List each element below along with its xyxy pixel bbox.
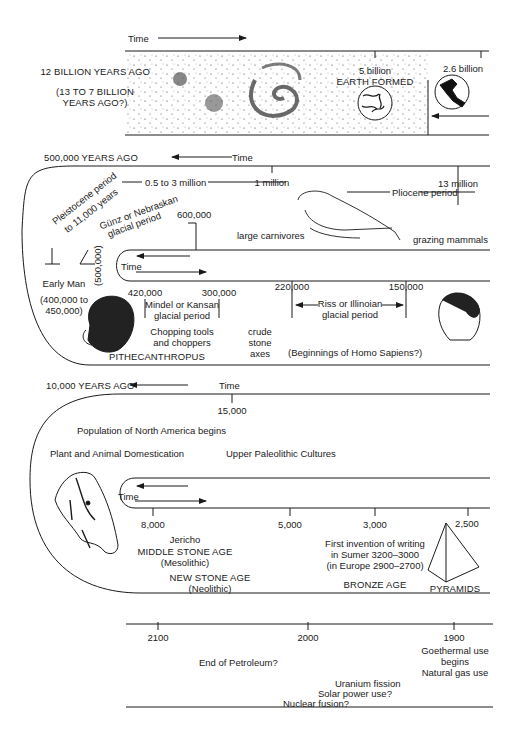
tick-2000: 2000 (288, 632, 328, 643)
natural-gas: Natural gas use (420, 667, 490, 678)
pyramids: PYRAMIDS (420, 583, 490, 594)
range-0-5-to-3-million: 0.5 to 3 million (145, 177, 206, 188)
pliocene-period: Pliocene period (392, 187, 458, 198)
crude-axes-line3: axes (240, 348, 280, 359)
crude-axes-line2: stone (240, 337, 280, 348)
writing-line3: (in Europe 2900–2700) (320, 560, 430, 571)
new-stone-age: NEW STONE AGE (145, 572, 275, 583)
nuclear-fusion: Nuclear fusion? (283, 698, 349, 709)
large-carnivores: large carnivores (237, 230, 305, 241)
geothermal-line2: begins (420, 656, 490, 667)
chopping-tools-line1: Chopping tools (145, 326, 219, 337)
mesolithic: (Mesolithic) (120, 557, 250, 568)
end-of-petroleum: End of Petroleum? (199, 657, 278, 668)
start-label-10k: 10,000 YEARS AGO (46, 380, 135, 391)
writing-line1: First invention of writing (320, 538, 430, 549)
grazing-mammals: grazing mammals (413, 234, 488, 245)
earth-formed-label: EARTH FORMED (335, 76, 415, 87)
pithecanthropus: PITHECANTHROPUS (109, 351, 205, 362)
tick-5000: 5,000 (270, 519, 310, 530)
chopping-tools-line2: and choppers (145, 337, 219, 348)
start-label-500k: 500,000 YEARS AGO (44, 152, 138, 163)
tick-150k: 150,000 (381, 281, 431, 292)
tick-1-million: 1 million (246, 177, 298, 188)
early-man: Early Man (34, 278, 94, 289)
bronze-age: BRONZE AGE (335, 579, 415, 590)
middle-stone-age: MIDDLE STONE AGE (120, 546, 250, 557)
plant-animal-domestication: Plant and Animal Domestication (50, 448, 184, 459)
crude-axes-line1: crude (240, 326, 280, 337)
neolithic: (Neolithic) (145, 583, 275, 594)
riss-line2: glacial period (310, 309, 390, 320)
start-label-12-billion: 12 BILLION YEARS AGO (34, 66, 150, 77)
tick-3000: 3,000 (355, 519, 395, 530)
earth-formed-value: 5 billion (335, 65, 415, 76)
early-man-range-line2: 450,000) (34, 305, 94, 316)
riss-line1: Riss or Illinoian (310, 298, 390, 309)
tick-8000: 8,000 (133, 519, 173, 530)
range-note-line1: (13 TO 7 BILLION (50, 86, 140, 97)
range-note-line2: YEARS AGO?) (50, 97, 140, 108)
north-america-population: Population of North America begins (77, 425, 226, 436)
tick-420k: 420,000 (120, 287, 170, 298)
upper-paleolithic: Upper Paleolithic Cultures (226, 448, 336, 459)
homo-sapiens: (Beginnings of Homo Sapiens?) (288, 347, 422, 358)
mindel-line2: glacial period (145, 310, 219, 321)
geothermal-line1: Goethermal use (420, 645, 490, 656)
band1-time-label: Time (128, 33, 149, 44)
jericho: Jericho (120, 534, 250, 545)
tick-2100: 2100 (138, 632, 178, 643)
band2-time-label: Time (232, 152, 253, 163)
tick-2500: 2,500 (447, 518, 487, 529)
writing-line2: in Sumer 3200–3000 (320, 549, 430, 560)
band2-inner-time-label: Time (121, 261, 142, 272)
early-man-range-line1: (400,000 to (34, 294, 94, 305)
tick-220k: 220,000 (267, 281, 317, 292)
tick-1900: 1900 (434, 632, 474, 643)
band3-time-label: Time (219, 380, 240, 391)
tick-15k: 15,000 (210, 405, 254, 416)
tick-2-6-billion: 2.6 billion (443, 63, 483, 74)
tick-600k: 600,000 (177, 209, 211, 220)
tick-300k: 300,000 (194, 287, 244, 298)
band3-inner-time-label: Time (118, 491, 139, 502)
timeline-line-art (0, 0, 520, 739)
mindel-line1: Mindel or Kansan (145, 299, 219, 310)
